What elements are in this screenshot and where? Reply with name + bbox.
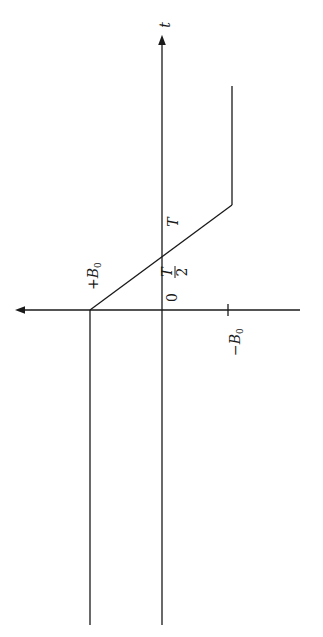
ramp-segment: [90, 205, 232, 310]
waveform-diagram: t +B0 −B0 0 T 2 T: [0, 0, 323, 637]
half-period-label: T 2: [159, 266, 190, 278]
origin-label: 0: [164, 293, 180, 302]
half-period-denominator: 2: [174, 268, 190, 277]
time-axis-label: t: [157, 22, 173, 28]
period-label: T: [165, 216, 181, 227]
minus-b0-label: −B0: [227, 328, 245, 356]
plus-b0-label: +B0: [85, 262, 103, 290]
